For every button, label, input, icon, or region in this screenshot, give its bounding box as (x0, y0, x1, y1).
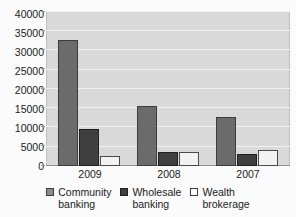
legend-label-wealth: Wealth brokerage (202, 186, 249, 210)
y-axis-tick-label: 20000 (0, 85, 44, 95)
bar-wealth-2007 (258, 150, 278, 166)
y-axis-tick-mark (41, 49, 45, 50)
bar-wholesale-2009 (79, 129, 99, 166)
x-axis-tick-label-2009: 2009 (56, 168, 124, 180)
legend-label-line2: banking (58, 198, 111, 210)
y-axis-tick-mark (41, 30, 45, 31)
bar-group-2008 (135, 11, 203, 166)
bar-wholesale-2008 (158, 152, 178, 166)
legend-label-community: Community banking (58, 186, 111, 210)
y-axis-tick-label: 10000 (0, 123, 44, 133)
bar-wealth-2008 (179, 152, 199, 166)
y-axis-tick-label: 0 (0, 161, 44, 171)
chart-legend: Community banking Wholesale banking Weal… (0, 186, 296, 210)
legend-label-line1: Wealth (202, 186, 235, 198)
y-axis-tick-mark (41, 68, 45, 69)
y-axis-tick-mark (41, 88, 45, 89)
legend-swatch-wholesale-icon (120, 188, 128, 196)
legend-item-community: Community banking (46, 186, 111, 210)
bar-community-2008 (137, 106, 157, 166)
y-axis-tick-label: 25000 (0, 66, 44, 76)
bar-wealth-2009 (100, 156, 120, 166)
bar-community-2007 (216, 117, 236, 166)
legend-swatch-wealth-icon (190, 188, 198, 196)
bar-groups (46, 11, 290, 166)
y-axis-tick-mark (41, 126, 45, 127)
legend-item-wholesale: Wholesale banking (120, 186, 181, 210)
bar-community-2009 (58, 40, 78, 166)
bar-group-2009 (56, 11, 124, 166)
y-axis-tick-mark (41, 107, 45, 108)
legend-label-line1: Wholesale (132, 186, 181, 198)
y-axis-tick-label: 35000 (0, 28, 44, 38)
legend-label-line1: Community (58, 186, 111, 198)
bar-chart: 40000 35000 30000 25000 20000 15000 1000… (0, 0, 296, 217)
legend-label-line2: banking (132, 198, 181, 210)
y-axis-tick-label: 15000 (0, 104, 44, 114)
legend-swatch-community-icon (46, 188, 54, 196)
x-axis-tick-label-2007: 2007 (214, 168, 282, 180)
legend-item-wealth: Wealth brokerage (190, 186, 249, 210)
x-axis-tick-label-2008: 2008 (135, 168, 203, 180)
y-axis-tick-mark (41, 11, 45, 12)
y-axis-tick-label: 5000 (0, 142, 44, 152)
y-axis-tick-mark (41, 145, 45, 146)
legend-label-wholesale: Wholesale banking (132, 186, 181, 210)
legend-label-line2: brokerage (202, 198, 249, 210)
y-axis-tick-mark (41, 165, 45, 166)
y-axis-tick-label: 30000 (0, 47, 44, 57)
bar-wholesale-2007 (237, 154, 257, 166)
bar-group-2007 (214, 11, 282, 166)
y-axis-tick-label: 40000 (0, 9, 44, 19)
